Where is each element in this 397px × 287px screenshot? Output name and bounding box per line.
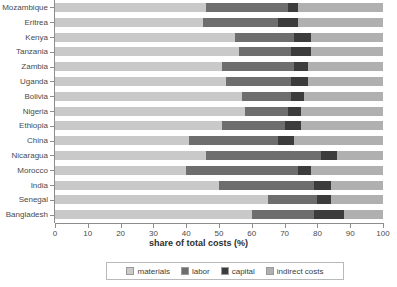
- bar-segment-labor: [222, 62, 294, 71]
- bar-segment-indirect-costs: [331, 181, 383, 190]
- legend-swatch-icon: [181, 267, 189, 275]
- bar-segment-capital: [314, 181, 330, 190]
- x-axis-tick-label: 10: [83, 229, 92, 238]
- bar-segment-labor: [206, 151, 321, 160]
- bar-segment-labor: [242, 92, 291, 101]
- bar-segment-indirect-costs: [308, 77, 383, 86]
- y-axis-tick: [50, 81, 54, 82]
- bar-segment-labor: [239, 47, 291, 56]
- bar-segment-capital: [294, 33, 310, 42]
- bar-segment-capital: [298, 166, 311, 175]
- bar-segment-labor: [206, 3, 288, 12]
- bar-segment-labor: [235, 33, 294, 42]
- legend-item[interactable]: indirect costs: [266, 267, 324, 276]
- bar-segment-indirect-costs: [304, 92, 383, 101]
- bar-segment-capital: [291, 77, 307, 86]
- y-axis-tick: [50, 96, 54, 97]
- bar-segment-indirect-costs: [337, 151, 383, 160]
- bar-segment-capital: [294, 62, 307, 71]
- x-axis-tick-label: 20: [116, 229, 125, 238]
- bar-segment-labor: [186, 166, 298, 175]
- y-axis-tick: [50, 7, 54, 8]
- bar-segment-indirect-costs: [311, 47, 383, 56]
- bar-segment-labor: [219, 181, 314, 190]
- y-axis-tick: [50, 111, 54, 112]
- y-axis-tick: [50, 22, 54, 23]
- bar-segment-materials: [55, 195, 268, 204]
- x-axis-tick-label: 70: [280, 229, 289, 238]
- y-axis-tick: [50, 200, 54, 201]
- bar-segment-indirect-costs: [308, 62, 383, 71]
- bar-segment-labor: [252, 210, 314, 219]
- legend-item[interactable]: labor: [181, 267, 210, 276]
- stacked-bar-chart: MozambiqueEritreaKenyaTanzaniaZambiaUgan…: [0, 0, 397, 287]
- x-axis-tick-label: 50: [215, 229, 224, 238]
- bar-row: [55, 33, 383, 42]
- y-axis-label: Mozambique: [2, 3, 48, 12]
- bar-segment-materials: [55, 47, 239, 56]
- y-axis-tick: [50, 215, 54, 216]
- bar-row: [55, 136, 383, 145]
- x-axis-tick: [252, 224, 253, 228]
- legend-label: materials: [137, 267, 169, 276]
- bar-row: [55, 121, 383, 130]
- bar-segment-labor: [226, 77, 292, 86]
- y-axis-label: Senegal: [19, 195, 48, 204]
- y-axis-tick: [50, 170, 54, 171]
- bar-segment-capital: [278, 136, 294, 145]
- x-axis-tick-label: 90: [346, 229, 355, 238]
- x-axis-tick: [350, 224, 351, 228]
- bar-segment-indirect-costs: [298, 18, 383, 27]
- legend-item[interactable]: capital: [221, 267, 255, 276]
- bar-segment-materials: [55, 107, 245, 116]
- y-axis-label: China: [27, 136, 48, 145]
- bar-segment-capital: [291, 92, 304, 101]
- bar-segment-labor: [189, 136, 278, 145]
- y-axis-tick: [50, 185, 54, 186]
- bar-row: [55, 18, 383, 27]
- legend-swatch-icon: [126, 267, 134, 275]
- x-axis-tick: [383, 224, 384, 228]
- bar-segment-capital: [285, 121, 301, 130]
- y-axis-tick: [50, 141, 54, 142]
- bar-segment-capital: [314, 210, 344, 219]
- y-axis-label: Tanzania: [16, 47, 48, 56]
- y-axis-category-labels: MozambiqueEritreaKenyaTanzaniaZambiaUgan…: [0, 0, 48, 222]
- x-axis-tick-label: 0: [53, 229, 57, 238]
- y-axis-label: Zambia: [21, 62, 48, 71]
- y-axis-label: India: [31, 181, 48, 190]
- bar-segment-capital: [317, 195, 330, 204]
- legend-item[interactable]: materials: [126, 267, 169, 276]
- legend-swatch-icon: [221, 267, 229, 275]
- bar-segment-materials: [55, 33, 235, 42]
- bar-row: [55, 77, 383, 86]
- bar-segment-indirect-costs: [331, 195, 383, 204]
- y-axis-tick: [50, 37, 54, 38]
- bar-segment-indirect-costs: [298, 3, 383, 12]
- x-axis-tick-label: 30: [149, 229, 158, 238]
- y-axis-label: Nicaragua: [12, 151, 48, 160]
- bar-segment-materials: [55, 210, 252, 219]
- x-axis-tick: [317, 224, 318, 228]
- bar-segment-materials: [55, 136, 189, 145]
- bar-segment-materials: [55, 3, 206, 12]
- bar-row: [55, 151, 383, 160]
- bar-segment-labor: [222, 121, 284, 130]
- x-axis-tick: [153, 224, 154, 228]
- y-axis-tick: [50, 155, 54, 156]
- bar-row: [55, 166, 383, 175]
- legend-label: capital: [232, 267, 255, 276]
- legend-label: indirect costs: [277, 267, 324, 276]
- x-axis-tick: [285, 224, 286, 228]
- bar-segment-indirect-costs: [301, 107, 383, 116]
- bar-segment-indirect-costs: [301, 121, 383, 130]
- x-axis-tick-label: 80: [313, 229, 322, 238]
- bar-segment-materials: [55, 18, 203, 27]
- y-axis-label: Ethiopia: [19, 121, 48, 130]
- bar-segment-indirect-costs: [311, 166, 383, 175]
- legend-label: labor: [192, 267, 210, 276]
- y-axis-label: Bangladesh: [6, 210, 48, 219]
- x-axis-tick: [186, 224, 187, 228]
- y-axis-tick: [50, 67, 54, 68]
- bar-row: [55, 181, 383, 190]
